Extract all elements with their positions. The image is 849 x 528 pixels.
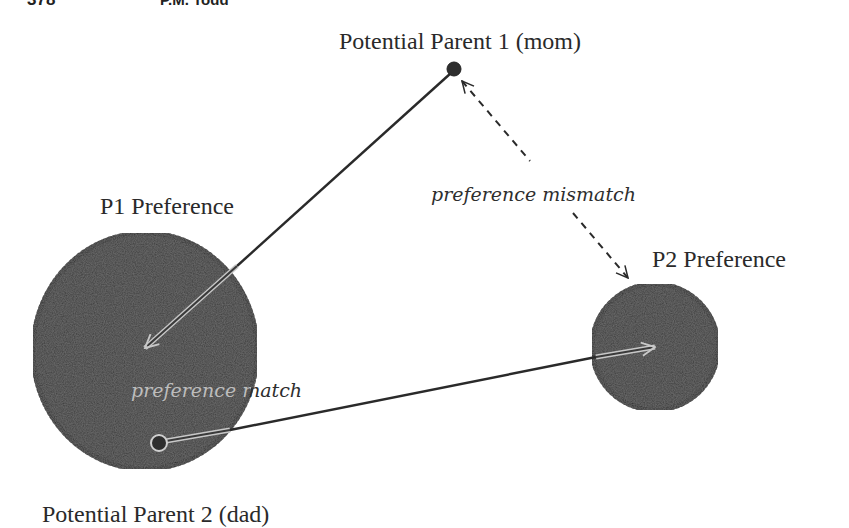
parent2-label: Potential Parent 2 (dad) (42, 501, 269, 527)
page-number: 378 (27, 0, 55, 9)
mismatch-label: preference mismatch (431, 183, 636, 205)
running-head: P.M. Todd (160, 0, 229, 8)
edge-preference-mismatch (462, 81, 628, 278)
mate-preference-diagram: 378 P.M. Todd Potential Parent 1 (mom) P… (0, 0, 849, 528)
p2-preference-label: P2 Preference (652, 246, 786, 272)
parent2-node (151, 435, 167, 451)
match-label-group: preference match preference match (131, 379, 302, 401)
page-header: 378 P.M. Todd (27, 0, 229, 9)
parent1-node (447, 62, 461, 76)
p1-preference-label: P1 Preference (100, 193, 234, 219)
parent1-label: Potential Parent 1 (mom) (339, 28, 581, 54)
